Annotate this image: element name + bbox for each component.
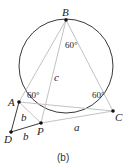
- point-A: [17, 100, 21, 104]
- label-D: D: [3, 133, 12, 145]
- label-B: B: [62, 6, 69, 18]
- figure-caption: (b): [57, 152, 69, 163]
- segment-label-c: c: [54, 71, 59, 83]
- angle-label-C: 60°: [92, 90, 105, 100]
- segment-AC: [19, 102, 113, 111]
- label-P: P: [36, 125, 44, 137]
- point-B: [64, 18, 68, 22]
- geometry-diagram: B A C P D 60° 60° 60° c b b a (b): [0, 0, 128, 167]
- angle-label-B: 60°: [65, 40, 78, 50]
- label-A: A: [7, 96, 15, 108]
- segment-label-a: a: [74, 121, 80, 133]
- angle-label-A: 60°: [27, 90, 40, 100]
- segment-BC: [66, 20, 113, 111]
- label-C: C: [115, 111, 123, 123]
- segment-label-b-DP: b: [23, 130, 29, 142]
- segment-label-b-AP: b: [21, 111, 27, 123]
